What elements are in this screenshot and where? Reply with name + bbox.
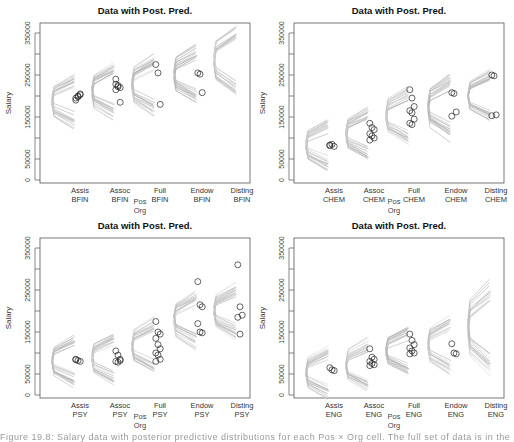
x-tick-label-pos: Assoc [110,401,131,410]
data-point [451,90,457,96]
chart-title: Data with Post. Pred. [98,5,193,16]
posterior-predictive-curves [346,107,369,159]
x-tick-label-org: PSY [112,410,127,419]
x-tick-label-pos: Full [408,186,420,195]
x-tick-label-pos: Endow [191,401,215,410]
data-points [489,72,499,119]
data-points [407,87,417,128]
data-point [331,368,337,374]
data-point [237,304,243,310]
chart-title: Data with Post. Pred. [98,220,193,231]
chart-bfin: Data with Post. Pred.0500001500002500003… [0,0,257,215]
posterior-predictive-curves [468,279,491,376]
data-point [409,95,415,101]
data-points [327,365,337,374]
y-tick-label: 350000 [24,236,31,259]
y-tick-label: 50000 [24,149,31,169]
x-tick-label-pos: Assis [71,186,89,195]
x-tick-label-org: BFIN [71,195,88,204]
x-axis-label-pos: Pos [134,197,147,206]
y-axis-label: Salary [4,92,13,115]
y-tick-label: 250000 [24,63,31,86]
x-tick-label-pos: Assoc [364,401,385,410]
data-point [449,341,455,347]
x-tick-label-pos: Disting [485,186,508,195]
data-points [153,62,163,108]
x-axis-label-org: Org [134,206,147,215]
x-tick-label-pos: Assis [71,401,89,410]
data-points [195,70,205,96]
data-points [113,348,123,365]
x-tick-label-pos: Disting [231,401,254,410]
posterior-predictive-curves [346,337,369,391]
data-point [195,70,201,76]
posterior-predictive-curves [52,74,75,129]
posterior-predictive-curves [214,282,237,339]
posterior-predictive-curves [306,119,329,170]
x-tick-label-pos: Endow [445,401,469,410]
chart-panel-bfin: Data with Post. Pred.0500001500002500003… [0,0,257,215]
y-tick-label: 150000 [24,105,31,128]
data-point [371,362,377,368]
x-tick-label-pos: Full [408,401,420,410]
data-point [327,142,333,148]
data-points [113,76,123,105]
chart-panel-chem: Data with Post. Pred.0500001500002500003… [254,0,511,215]
posterior-predictive-curves [306,345,329,399]
y-axis-label: Salary [258,92,267,115]
y-tick-label: 150000 [278,105,285,128]
data-points [153,319,163,365]
y-tick-label: 150000 [24,320,31,343]
y-tick-label: 50000 [278,149,285,169]
chart-title: Data with Post. Pred. [352,5,447,16]
x-tick-label-org: CHEM [445,195,467,204]
data-point [155,70,161,76]
posterior-predictive-curves [214,26,237,94]
y-tick-label: 250000 [278,278,285,301]
chart-psy: Data with Post. Pred.0500001500002500003… [0,215,257,430]
x-tick-label-org: CHEM [485,195,507,204]
data-points [407,331,417,357]
x-tick-label-pos: Assoc [110,186,131,195]
y-tick-label: 350000 [278,236,285,259]
data-point [195,321,201,327]
x-tick-label-org: BFIN [111,195,128,204]
x-axis-label-pos: Pos [134,412,147,421]
data-points [449,341,459,357]
posterior-predictive-curves [174,44,197,103]
y-tick-label: 350000 [24,21,31,44]
data-points [327,141,337,149]
x-axis-label-pos: Pos [388,197,401,206]
posterior-predictive-curves [92,62,115,120]
plot-area [294,238,504,398]
x-axis-label-pos: Pos [388,412,401,421]
data-point [491,73,497,79]
x-tick-label-pos: Disting [485,401,508,410]
data-point [197,71,203,77]
posterior-predictive-curves [386,86,409,144]
x-axis-label-org: Org [388,421,401,430]
posterior-predictive-curves [174,291,197,350]
data-points [73,91,83,103]
y-tick-label: 50000 [24,364,31,384]
data-point [199,90,205,96]
x-tick-label-org: ENG [366,410,382,419]
data-points [235,262,245,337]
y-tick-label: 350000 [278,21,285,44]
data-point [453,351,459,357]
x-axis-label-org: Org [388,206,401,215]
figure-caption: Figure 19.8: Salary data with posterior … [0,432,514,442]
chart-chem: Data with Post. Pred.0500001500002500003… [254,0,511,215]
posterior-predictive-curves [132,53,155,116]
chart-panel-eng: Data with Post. Pred.0500001500002500003… [254,215,511,430]
x-tick-label-org: ENG [326,410,342,419]
y-axis-label: Salary [258,307,267,330]
x-tick-label-pos: Disting [231,186,254,195]
x-tick-label-org: PSY [194,410,209,419]
data-points [73,356,83,364]
chart-panel-psy: Data with Post. Pred.0500001500002500003… [0,215,257,430]
x-tick-label-pos: Assis [325,186,343,195]
x-tick-label-org: CHEM [323,195,345,204]
y-axis-label: Salary [4,307,13,330]
x-tick-label-org: ENG [448,410,464,419]
